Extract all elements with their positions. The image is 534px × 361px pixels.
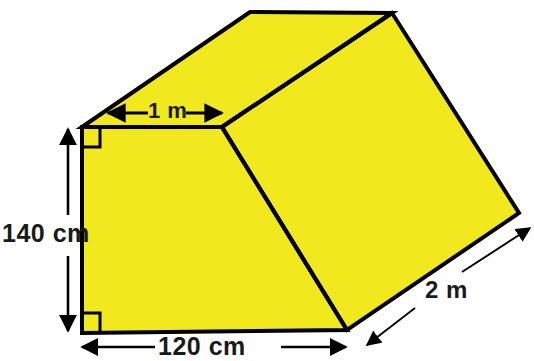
dimension-label-depth: 2 m: [425, 278, 468, 302]
diagram-canvas: 140 cm 120 cm 1 m 2 m: [0, 0, 534, 361]
prism-figure: [0, 0, 534, 361]
dimension-label-width: 120 cm: [158, 334, 246, 359]
dimension-label-top-slope: 1 m: [148, 100, 187, 122]
dimension-label-height: 140 cm: [2, 221, 90, 246]
